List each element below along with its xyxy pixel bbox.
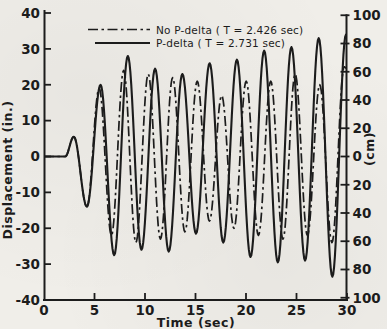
right-tick-label: 40 xyxy=(353,205,372,221)
x-tick-label: 25 xyxy=(287,302,306,318)
x-axis-title: Time (sec) xyxy=(157,315,235,329)
legend-label-no-p-delta: No P-delta ( T = 2.426 sec) xyxy=(156,24,303,36)
left-tick-label: 30 xyxy=(21,41,40,57)
chart-figure: 403020100-10-20-30-401008060402002040608… xyxy=(0,0,387,329)
legend-label-p-delta: P-delta ( T = 2.731 sec) xyxy=(156,37,285,49)
x-tick-label: 0 xyxy=(39,302,48,318)
x-tick-label: 30 xyxy=(338,302,357,318)
left-tick-label: 0 xyxy=(31,148,40,164)
left-tick-label: 40 xyxy=(21,5,40,21)
right-tick-label: 80 xyxy=(353,261,372,277)
plot-area: 403020100-10-20-30-401008060402002040608… xyxy=(16,5,381,318)
left-tick-label: -30 xyxy=(16,256,40,272)
left-tick-label: 10 xyxy=(21,112,40,128)
chart-canvas: 403020100-10-20-30-401008060402002040608… xyxy=(0,0,387,329)
right-tick-label: 60 xyxy=(353,64,372,80)
right-tick-label: 20 xyxy=(353,177,372,193)
left-tick-label: -20 xyxy=(16,220,40,236)
left-tick-label: 20 xyxy=(21,77,40,93)
x-tick-label: 5 xyxy=(90,302,99,318)
x-tick-label: 20 xyxy=(237,302,256,318)
right-tick-label: 100 xyxy=(353,290,381,306)
left-tick-label: -10 xyxy=(16,184,40,200)
right-tick-label: 100 xyxy=(353,7,381,23)
left-axis-title: Displacement (in.) xyxy=(0,101,15,240)
x-tick-label: 10 xyxy=(136,302,155,318)
left-tick-label: -40 xyxy=(16,292,40,308)
legend: No P-delta ( T = 2.426 sec) P-delta ( T … xyxy=(88,24,303,50)
right-axis-title: (cm) xyxy=(362,132,377,166)
right-tick-label: 40 xyxy=(353,92,372,108)
right-tick-label: 80 xyxy=(353,35,372,51)
right-tick-label: 60 xyxy=(353,233,372,249)
right-tick-label: 0 xyxy=(353,148,362,164)
